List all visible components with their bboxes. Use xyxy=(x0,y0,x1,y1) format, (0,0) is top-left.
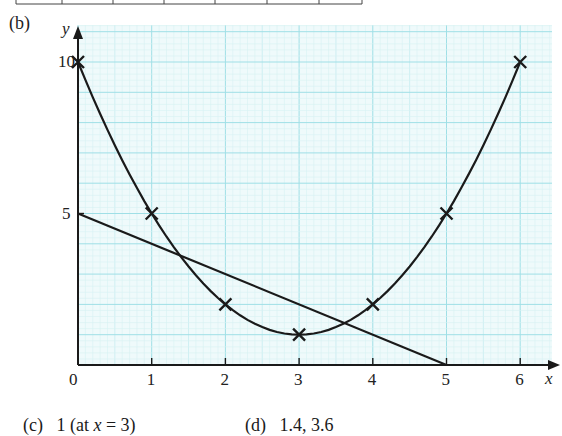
x-axis-label: x xyxy=(545,370,553,387)
answer-c: (c) 1 (at x = 3) xyxy=(14,394,136,436)
x-tick-label: 1 xyxy=(147,371,156,388)
part-b-label: (b) xyxy=(9,14,30,32)
y-tick-label: 5 xyxy=(62,205,71,222)
x-tick-label: 6 xyxy=(515,371,524,388)
x-tick-label: 5 xyxy=(442,371,451,388)
y-axis-label: y xyxy=(62,20,70,37)
x-tick-label: 4 xyxy=(368,371,377,388)
part-d-label: (d) xyxy=(245,415,266,435)
part-c-label: (c) xyxy=(23,415,43,435)
answer-d-text: 1.4, 3.6 xyxy=(280,415,334,435)
x-tick-label: 0 xyxy=(69,371,78,388)
y-tick-label: 10 xyxy=(58,53,75,70)
answer-c-text: 1 (at xyxy=(56,415,93,435)
answer-d: (d) 1.4, 3.6 xyxy=(236,394,334,436)
answer-c-rest: = 3) xyxy=(101,415,135,435)
x-tick-label: 3 xyxy=(294,371,303,388)
x-tick-label: 2 xyxy=(220,371,229,388)
grid xyxy=(78,25,552,365)
